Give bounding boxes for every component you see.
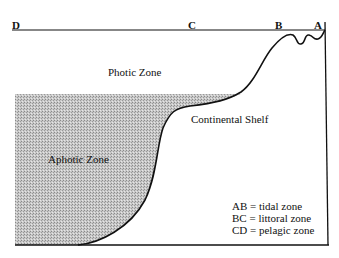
continental-shelf-label: Continental Shelf	[191, 113, 268, 125]
right-boundary-line	[325, 22, 328, 245]
legend-item-tidal: AB = tidal zone	[232, 200, 314, 212]
zone-legend: AB = tidal zone BC = littoral zone CD = …	[232, 200, 314, 236]
point-c-label: C	[188, 19, 196, 31]
photic-zone-label: Photic Zone	[108, 66, 161, 78]
aphotic-zone-label: Aphotic Zone	[48, 153, 109, 165]
legend-item-pelagic: CD = pelagic zone	[232, 224, 314, 236]
legend-item-littoral: BC = littoral zone	[232, 212, 314, 224]
point-b-label: B	[275, 19, 282, 31]
point-d-label: D	[12, 19, 20, 31]
point-a-label: A	[314, 19, 322, 31]
